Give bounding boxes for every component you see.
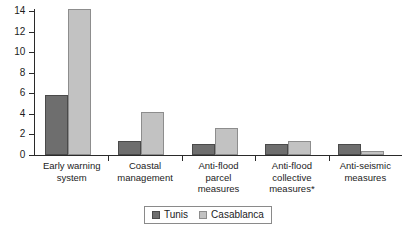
y-axis-tick-label: 14 xyxy=(3,6,25,16)
category-label-line: Anti-seismic xyxy=(326,160,405,172)
category-label-line: management xyxy=(105,172,184,184)
bar-casablanca-4 xyxy=(361,151,384,155)
x-axis-category-label: Anti-seismicmeasures xyxy=(326,160,405,183)
y-axis-tick-label: 4 xyxy=(3,109,25,119)
category-label-line: Early warning xyxy=(32,160,111,172)
y-axis-tick-label: 8 xyxy=(3,68,25,78)
legend-label: Tunis xyxy=(164,209,188,220)
bar-tunis-4 xyxy=(338,144,361,155)
bar-casablanca-2 xyxy=(215,128,238,155)
bar-tunis-1 xyxy=(118,141,141,155)
x-axis-category-label: Anti-floodcollectivemeasures* xyxy=(252,160,331,195)
category-label-line: measures xyxy=(326,172,405,184)
y-axis-tick-label: 10 xyxy=(3,47,25,57)
y-axis-tick-label: 2 xyxy=(3,129,25,139)
category-label-line: measures xyxy=(179,183,258,195)
bar-casablanca-3 xyxy=(288,141,311,155)
chart-legend: TunisCasablanca xyxy=(144,206,272,224)
tunis-swatch xyxy=(152,211,160,219)
x-axis-category-label: Early warningsystem xyxy=(32,160,111,183)
category-label-line: collective xyxy=(252,172,331,184)
bar-tunis-3 xyxy=(265,144,288,155)
legend-item-casablanca: Casablanca xyxy=(199,209,264,220)
y-axis-tick-label: 12 xyxy=(3,27,25,37)
plot-area xyxy=(34,8,402,158)
x-axis-category-label: Coastalmanagement xyxy=(105,160,184,183)
legend-label: Casablanca xyxy=(211,209,264,220)
category-label-line: system xyxy=(32,172,111,184)
casablanca-swatch xyxy=(199,211,207,219)
category-label-line: Anti-flood xyxy=(252,160,331,172)
bar-casablanca-1 xyxy=(141,112,164,155)
bar-casablanca-0 xyxy=(68,9,91,155)
legend-item-tunis: Tunis xyxy=(152,209,188,220)
bar-tunis-2 xyxy=(192,144,215,155)
x-axis-category-label: Anti-floodparcelmeasures xyxy=(179,160,258,195)
bar-tunis-0 xyxy=(45,95,68,155)
category-label-line: Coastal xyxy=(105,160,184,172)
y-axis-tick-label: 0 xyxy=(3,150,25,160)
category-label-line: measures* xyxy=(252,183,331,195)
bar-chart: 02468101214 Early warningsystemCoastalma… xyxy=(0,0,406,229)
y-axis-tick-label: 6 xyxy=(3,88,25,98)
category-label-line: parcel xyxy=(179,172,258,184)
category-label-line: Anti-flood xyxy=(179,160,258,172)
